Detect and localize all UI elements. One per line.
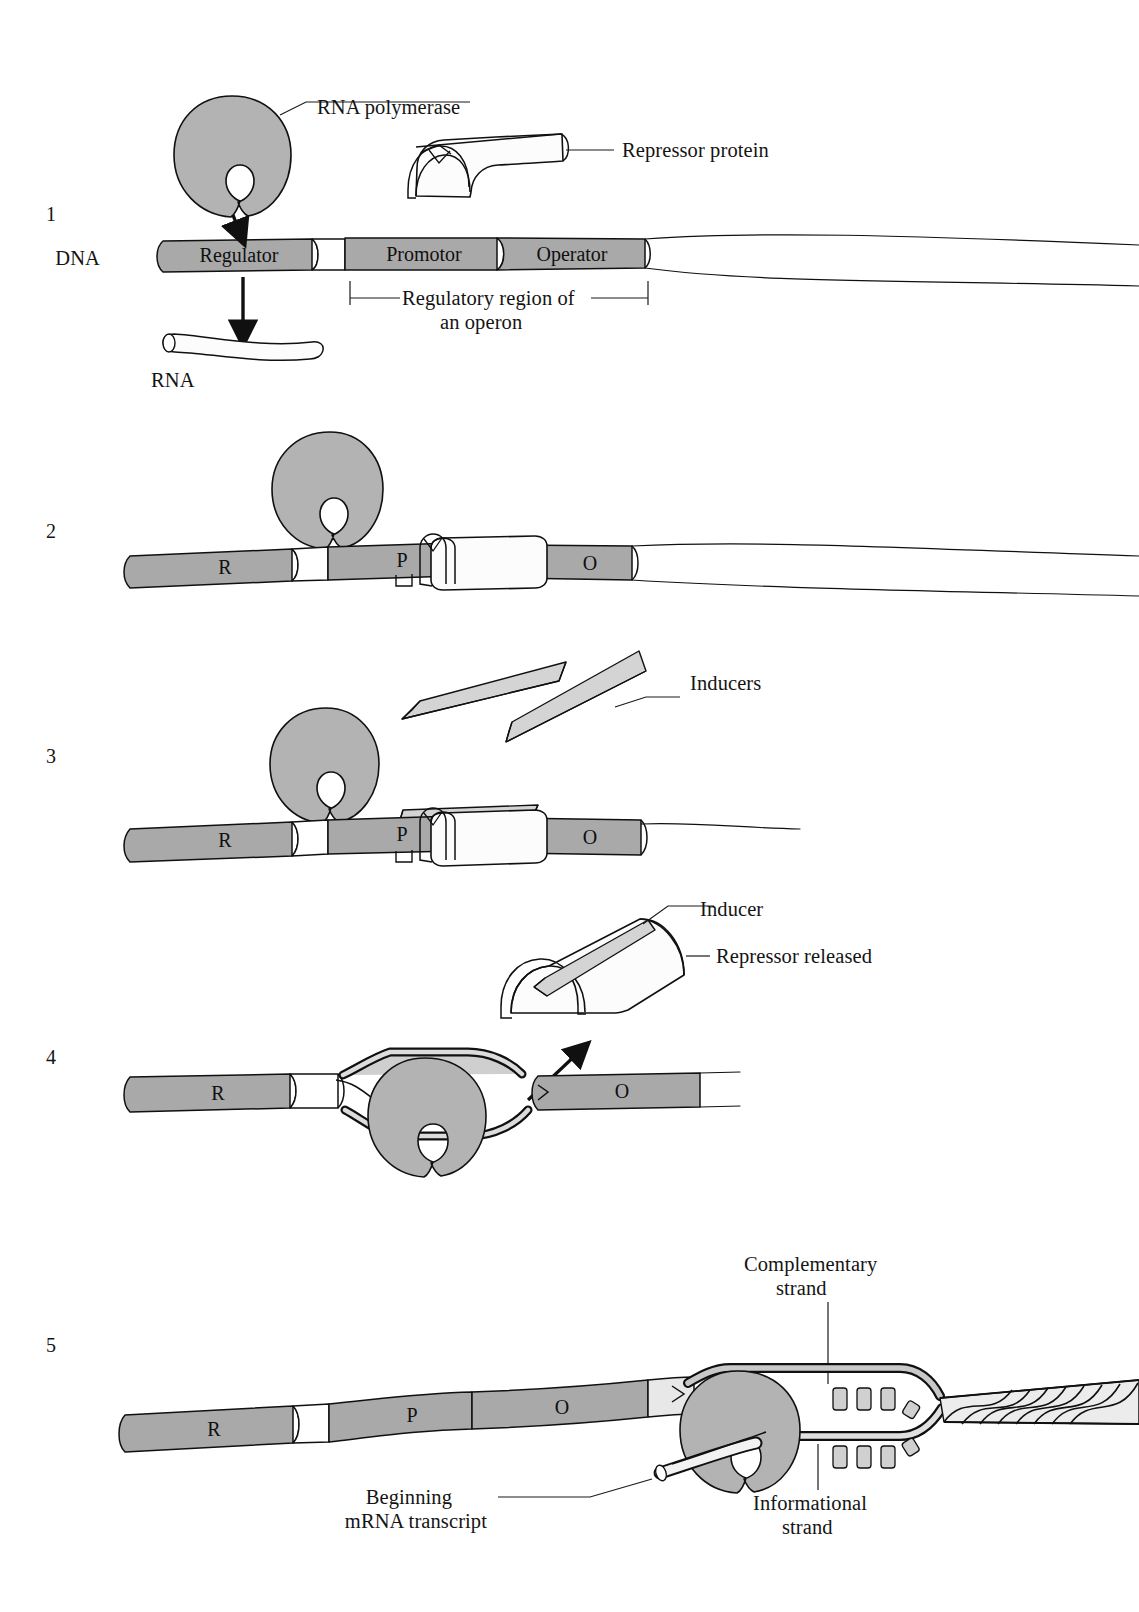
panel-number-4: 4 bbox=[46, 1046, 56, 1068]
dna-segment-letter-o-2: O bbox=[583, 552, 597, 574]
dna-segment-letter-p-3: P bbox=[396, 823, 407, 845]
panel-number-2: 2 bbox=[46, 520, 56, 542]
panel-number-3: 3 bbox=[46, 745, 56, 767]
rna-polymerase-icon-2 bbox=[272, 432, 383, 549]
label-repressor-released: Repressor released bbox=[716, 945, 872, 968]
label-rna-polymerase: RNA polymerase bbox=[317, 96, 460, 119]
dna-segment-label-regulator: Regulator bbox=[200, 244, 279, 267]
label-informational-line1: Informational bbox=[753, 1492, 867, 1514]
label-inducers: Inducers bbox=[690, 672, 761, 694]
label-beginning-line2: mRNA transcript bbox=[345, 1510, 487, 1533]
dna-segment-letter-o-4: O bbox=[615, 1080, 629, 1102]
label-complementary-strand-line2: strand bbox=[776, 1277, 827, 1299]
operon-regulation-diagram: 1 RNA polymerase Repressor protein bbox=[0, 0, 1139, 1612]
dna-segment-letter-r-3: R bbox=[218, 829, 232, 851]
rna-polymerase-icon bbox=[174, 96, 291, 217]
label-informational-line2: strand bbox=[782, 1516, 833, 1538]
panel-number-1: 1 bbox=[46, 203, 56, 225]
label-beginning-line1: Beginning bbox=[366, 1486, 452, 1509]
dna-segment-letter-r-2: R bbox=[218, 556, 232, 578]
dna-segment-letter-p-2: P bbox=[396, 549, 407, 571]
label-rna: RNA bbox=[151, 369, 195, 391]
label-dna: DNA bbox=[55, 247, 100, 269]
dna-segment-letter-o-5: O bbox=[555, 1396, 569, 1418]
dna-segment-letter-r-4: R bbox=[211, 1082, 225, 1104]
label-regulatory-region-line1: Regulatory region of bbox=[402, 287, 575, 310]
dna-segment-letter-o-3: O bbox=[583, 826, 597, 848]
dna-segment-letter-r-5: R bbox=[207, 1418, 221, 1440]
dna-segment-label-operator: Operator bbox=[536, 243, 607, 266]
label-regulatory-region-line2: an operon bbox=[440, 311, 522, 334]
dna-segment-label-promotor: Promotor bbox=[386, 243, 462, 265]
label-inducer-4: Inducer bbox=[700, 898, 763, 920]
label-repressor-protein: Repressor protein bbox=[622, 139, 769, 162]
label-complementary-strand-line1: Complementary bbox=[744, 1253, 878, 1276]
panel-number-5: 5 bbox=[46, 1334, 56, 1356]
figure-root: 1 RNA polymerase Repressor protein bbox=[0, 0, 1139, 1612]
rna-polymerase-icon-3 bbox=[270, 708, 379, 823]
dna-segment-letter-p-5: P bbox=[406, 1404, 417, 1426]
